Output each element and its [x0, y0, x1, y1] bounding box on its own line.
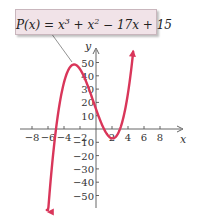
axes	[20, 48, 183, 208]
y-tick-label: −30	[73, 164, 94, 175]
x-tick-label: 8	[157, 132, 163, 143]
function-label: P(x) = x3 + x2 − 17x + 15	[15, 9, 157, 35]
x-tick-label: 4	[125, 132, 131, 143]
x-tick-label: 6	[141, 132, 147, 143]
x-tick-label: −8	[25, 132, 40, 143]
y-tick-label: 50	[81, 58, 94, 69]
y-tick-label: −40	[73, 177, 94, 188]
x-tick-label: −4	[57, 132, 72, 143]
y-tick-label: −50	[73, 191, 94, 202]
label-mid: + x	[70, 18, 94, 32]
y-tick-label: −10	[73, 137, 94, 148]
y-tick-label: −20	[73, 151, 94, 162]
x-tick-label: −6	[41, 132, 56, 143]
leader-line	[51, 33, 72, 62]
y-tick-label: 10	[81, 111, 94, 122]
x-axis-label: x	[180, 133, 187, 146]
label-lhs: P(x) = x	[16, 18, 65, 32]
label-rhs: − 17x + 15	[99, 18, 172, 32]
y-axis-label: y	[84, 40, 92, 53]
